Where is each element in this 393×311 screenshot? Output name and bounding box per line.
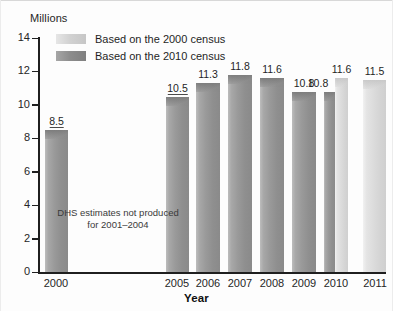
bar-value-label: 11.5 — [365, 65, 385, 77]
bar-2011: 11.5 — [363, 80, 386, 272]
bar-cap-shading — [196, 83, 220, 92]
bar-value-label: 10.5 — [167, 82, 187, 95]
x-axis-tick-label-2000: 2000 — [40, 277, 72, 289]
bar-value-label: 11.6 — [332, 63, 352, 75]
x-axis-title: Year — [0, 292, 393, 304]
bar-fill — [166, 97, 189, 273]
chart-figure: Millions 14121086420 Based on the 2000 c… — [0, 0, 393, 311]
plot-area: 8.510.511.311.811.610.810.811.611.5 — [38, 38, 386, 272]
bar-2010b: 11.6 — [335, 78, 348, 272]
bar-2008: 11.6 — [260, 78, 284, 272]
y-axis-title: Millions — [30, 12, 67, 24]
figure-border-top — [0, 0, 393, 1]
annotation-line-2: for 2001–2004 — [48, 219, 188, 231]
bar-fill — [363, 80, 386, 272]
bar-fill — [228, 75, 252, 272]
figure-border-left — [0, 0, 1, 311]
bar-value-label: 10.8 — [308, 77, 328, 89]
bar-cap-shading — [166, 97, 189, 106]
y-axis-tick-label: 14 — [4, 31, 30, 43]
y-axis-tick-label: 8 — [4, 131, 30, 143]
no-data-annotation: DHS estimates not produced for 2001–2004 — [48, 207, 188, 231]
x-axis-tick-label-2007: 2007 — [224, 277, 256, 289]
x-axis-tick-label-2008: 2008 — [256, 277, 288, 289]
x-axis-tick-label-2011: 2011 — [359, 277, 391, 289]
bar-value-label: 11.8 — [230, 60, 250, 72]
bar-2007: 11.8 — [228, 75, 252, 272]
bar-cap-shading — [45, 130, 68, 139]
y-axis-tick-label: 2 — [4, 232, 30, 244]
bar-2000: 8.5 — [45, 130, 68, 272]
bar-fill — [260, 78, 284, 272]
bar-2006: 11.3 — [196, 83, 220, 272]
bar-cap-shading — [363, 80, 386, 89]
bar-cap-shading — [260, 78, 284, 87]
bar-cap-shading — [292, 92, 316, 101]
bar-2005: 10.5 — [166, 97, 189, 273]
y-axis-tick-label: 4 — [4, 198, 30, 210]
bar-2010: 10.8 — [324, 92, 335, 273]
bar-value-label: 11.6 — [262, 63, 282, 75]
x-axis-tick-label-2006: 2006 — [192, 277, 224, 289]
bar-fill — [335, 78, 348, 272]
x-axis-tick-label-2010: 2010 — [320, 277, 352, 289]
x-axis-tick-label-2005: 2005 — [161, 277, 193, 289]
bar-fill — [196, 83, 220, 272]
bar-cap-shading — [324, 92, 335, 101]
x-axis-tick-label-2009: 2009 — [288, 277, 320, 289]
bar-fill — [292, 92, 316, 273]
y-axis-tick-label: 12 — [4, 64, 30, 76]
bar-value-label: 11.3 — [198, 68, 218, 80]
y-axis-tick-label: 0 — [4, 265, 30, 277]
bar-2009: 10.8 — [292, 92, 316, 273]
y-axis-tick-label: 10 — [4, 98, 30, 110]
bar-fill — [324, 92, 335, 273]
annotation-line-1: DHS estimates not produced — [48, 207, 188, 219]
y-axis-tick-label: 6 — [4, 165, 30, 177]
x-axis-line — [38, 272, 386, 274]
bar-value-label: 8.5 — [49, 115, 64, 128]
bar-cap-shading — [228, 75, 252, 84]
bar-fill — [45, 130, 68, 272]
bar-cap-shading — [335, 78, 348, 87]
